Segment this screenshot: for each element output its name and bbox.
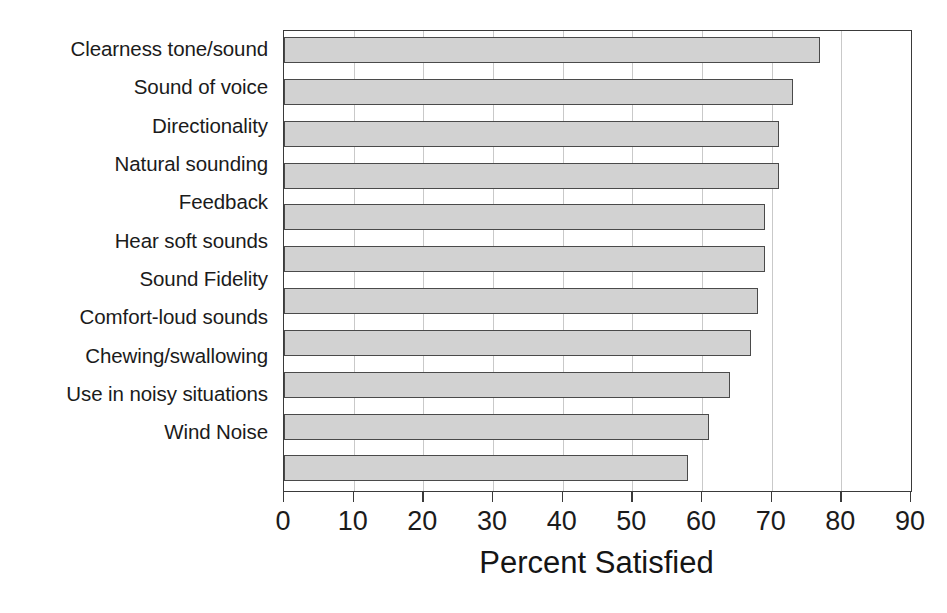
x-tick-label: 60 [671, 505, 731, 537]
x-tick-label: 10 [323, 505, 383, 537]
bar-row [284, 407, 911, 445]
category-tick: Clearness tone/sound [0, 30, 276, 68]
x-tick [353, 491, 354, 502]
bar [284, 288, 758, 314]
bar-row [284, 240, 911, 278]
category-label: Wind Noise [164, 422, 268, 443]
bar-row [284, 282, 911, 320]
x-tick [631, 491, 632, 502]
category-tick: Comfort-loud sounds [0, 298, 276, 336]
bar-row [284, 115, 911, 153]
category-label: Clearness tone/sound [71, 39, 268, 60]
category-axis: Clearness tone/sound Sound of voice Dire… [0, 30, 276, 490]
bar-row [284, 324, 911, 362]
category-tick: Directionality [0, 107, 276, 145]
bar [284, 455, 688, 481]
bar [284, 372, 730, 398]
x-tick-label: 50 [601, 505, 661, 537]
bar-row [284, 31, 911, 69]
x-tick-label: 0 [253, 505, 313, 537]
x-tick-label: 20 [392, 505, 452, 537]
x-axis-ticks [283, 491, 910, 505]
category-tick: Natural sounding [0, 145, 276, 183]
x-tick [422, 491, 423, 502]
x-tick-label: 70 [741, 505, 801, 537]
bar [284, 37, 820, 63]
x-tick [701, 491, 702, 502]
category-label: Sound of voice [134, 77, 268, 98]
category-label: Natural sounding [115, 154, 268, 175]
bar [284, 246, 765, 272]
x-tick-label: 30 [462, 505, 522, 537]
bar [284, 121, 779, 147]
x-tick-label: 80 [810, 505, 870, 537]
x-axis-title: Percent Satisfied [283, 545, 910, 581]
bar [284, 204, 765, 230]
category-label: Chewing/swallowing [85, 346, 268, 367]
category-tick: Use in noisy situations [0, 375, 276, 413]
x-tick [771, 491, 772, 502]
category-label: Feedback [179, 192, 268, 213]
bar-chart-figure: Clearness tone/sound Sound of voice Dire… [0, 0, 947, 613]
category-tick: Hear soft sounds [0, 222, 276, 260]
x-tick [492, 491, 493, 502]
category-label: Directionality [152, 116, 268, 137]
x-tick [283, 491, 284, 502]
category-tick: Wind Noise [0, 413, 276, 451]
bar-row [284, 73, 911, 111]
bar [284, 414, 709, 440]
category-tick: Feedback [0, 183, 276, 221]
category-tick: Sound Fidelity [0, 260, 276, 298]
category-tick: Sound of voice [0, 68, 276, 106]
bar [284, 163, 779, 189]
x-tick [562, 491, 563, 502]
category-label: Use in noisy situations [66, 384, 268, 405]
x-tick-label: 40 [532, 505, 592, 537]
bar-series [284, 31, 911, 491]
x-tick [840, 491, 841, 502]
bar [284, 79, 793, 105]
category-label: Hear soft sounds [115, 231, 268, 252]
plot-area [283, 30, 912, 492]
bar-row [284, 449, 911, 487]
category-label: Sound Fidelity [139, 269, 268, 290]
x-tick [910, 491, 911, 502]
bar-row [284, 198, 911, 236]
x-tick-label: 90 [880, 505, 940, 537]
x-axis-ticklabels: 0102030405060708090 [233, 505, 947, 539]
bar [284, 330, 751, 356]
bar-row [284, 156, 911, 194]
bar-row [284, 366, 911, 404]
category-label: Comfort-loud sounds [80, 307, 268, 328]
category-tick: Chewing/swallowing [0, 337, 276, 375]
